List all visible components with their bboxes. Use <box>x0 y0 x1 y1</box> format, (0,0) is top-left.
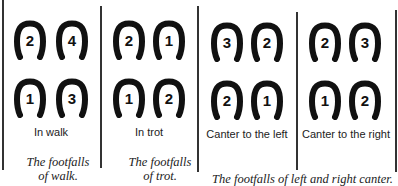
footfall-number: 1 <box>14 90 46 107</box>
horseshoe-icon: 2 <box>211 80 243 120</box>
gait-label-canter-right: Canter to the right <box>297 128 395 140</box>
horseshoe-icon: 1 <box>153 20 185 60</box>
gait-label-canter-left: Canter to the left <box>198 128 296 140</box>
footfall-number: 1 <box>113 90 145 107</box>
footfall-number: 2 <box>309 34 341 51</box>
horseshoe-icon: 1 <box>251 80 283 120</box>
horseshoe-icon: 1 <box>113 78 145 118</box>
footfall-number: 2 <box>113 32 145 49</box>
caption-trot-line1: The footfalls <box>110 155 210 169</box>
horseshoe-icon: 3 <box>211 22 243 62</box>
divider-line-1 <box>100 6 102 168</box>
caption-trot: The footfalls of trot. <box>110 155 210 183</box>
footfall-number: 3 <box>349 34 381 51</box>
footfall-number: 2 <box>349 92 381 109</box>
caption-walk: The footfalls of walk. <box>8 155 108 183</box>
caption-walk-line2: of walk. <box>8 169 108 183</box>
footfall-number: 2 <box>251 34 283 51</box>
horseshoe-icon: 2 <box>14 20 46 60</box>
divider-line-2 <box>197 6 199 172</box>
horseshoe-icon: 4 <box>56 20 88 60</box>
left-border-line <box>2 0 4 170</box>
right-border-line <box>395 10 397 172</box>
footfall-number: 3 <box>56 90 88 107</box>
horseshoe-icon: 2 <box>113 20 145 60</box>
horseshoe-icon: 3 <box>349 22 381 62</box>
footfall-number: 4 <box>56 32 88 49</box>
horseshoe-icon: 2 <box>349 80 381 120</box>
gait-label-walk: In walk <box>2 126 100 138</box>
divider-line-3 <box>296 12 298 170</box>
horseshoe-icon: 1 <box>14 78 46 118</box>
footfall-number: 2 <box>211 92 243 109</box>
horseshoe-icon: 2 <box>309 22 341 62</box>
footfall-number: 1 <box>309 92 341 109</box>
gait-label-trot: In trot <box>101 126 197 138</box>
footfall-number: 1 <box>251 92 283 109</box>
caption-trot-line2: of trot. <box>110 169 210 183</box>
caption-canter: The footfalls of left and right canter. <box>200 172 398 186</box>
footfall-number: 1 <box>153 32 185 49</box>
footfall-number: 2 <box>153 90 185 107</box>
horseshoe-icon: 2 <box>251 22 283 62</box>
horseshoe-icon: 1 <box>309 80 341 120</box>
horseshoe-icon: 3 <box>56 78 88 118</box>
caption-walk-line1: The footfalls <box>8 155 108 169</box>
footfall-number: 2 <box>14 32 46 49</box>
horseshoe-icon: 2 <box>153 78 185 118</box>
footfall-number: 3 <box>211 34 243 51</box>
